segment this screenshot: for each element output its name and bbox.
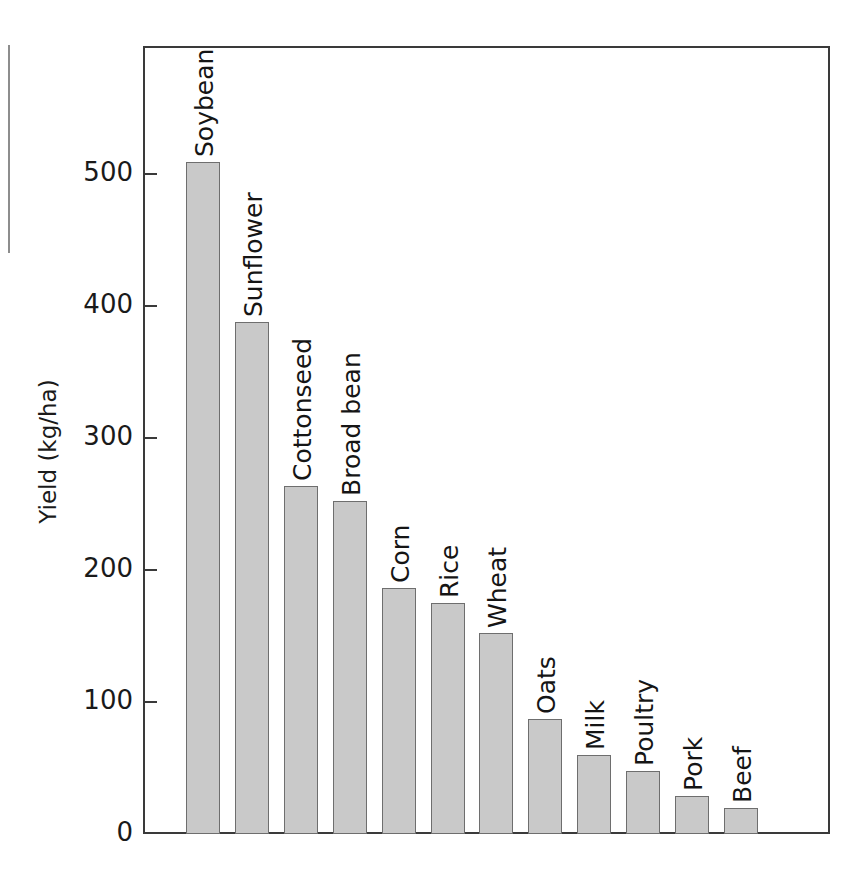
bar-category-label: Milk [583, 700, 608, 750]
bar [577, 755, 611, 834]
y-axis-tick-label: 0 [116, 819, 133, 845]
y-axis-tick-label: 300 [83, 423, 133, 449]
bar [626, 771, 660, 834]
bar [382, 588, 416, 834]
bar [675, 796, 709, 834]
bar [284, 486, 318, 834]
y-axis-tick-label: 400 [83, 291, 133, 317]
y-axis-tick [143, 173, 157, 175]
y-axis-tick [143, 305, 157, 307]
bar-category-label: Cottonseed [290, 337, 315, 480]
y-axis-tick [143, 437, 157, 439]
bar-chart-figure: 0100200300400500 Yield (kg/ha) SoybeanSu… [0, 0, 867, 883]
bar-category-label: Beef [730, 746, 755, 803]
bar [186, 162, 220, 834]
bar-category-label: Rice [437, 545, 462, 598]
bar [528, 719, 562, 834]
bar [724, 808, 758, 834]
plot-area: SoybeanSunflowerCottonseedBroad beanCorn… [143, 46, 830, 834]
y-axis-tick-label: 200 [83, 555, 133, 581]
bar [479, 633, 513, 834]
bar-category-label: Wheat [485, 547, 510, 628]
bar-category-label: Soybean [192, 49, 217, 157]
bar [431, 603, 465, 834]
bar-category-label: Oats [534, 656, 559, 714]
bar [235, 322, 269, 834]
y-axis-tick-label: 500 [83, 159, 133, 185]
y-axis-title: Yield (kg/ha) [37, 342, 60, 562]
y-axis-tick [143, 569, 157, 571]
bar-category-label: Corn [388, 525, 413, 583]
y-axis-tick-labels: 0100200300400500 [0, 0, 133, 883]
bar-category-label: Broad bean [339, 353, 364, 497]
bar-category-label: Sunflower [241, 192, 266, 317]
bar-category-label: Pork [681, 736, 706, 790]
y-axis-tick [143, 701, 157, 703]
y-axis-tick-label: 100 [83, 687, 133, 713]
bar-category-label: Poultry [632, 678, 657, 765]
bar [333, 501, 367, 834]
